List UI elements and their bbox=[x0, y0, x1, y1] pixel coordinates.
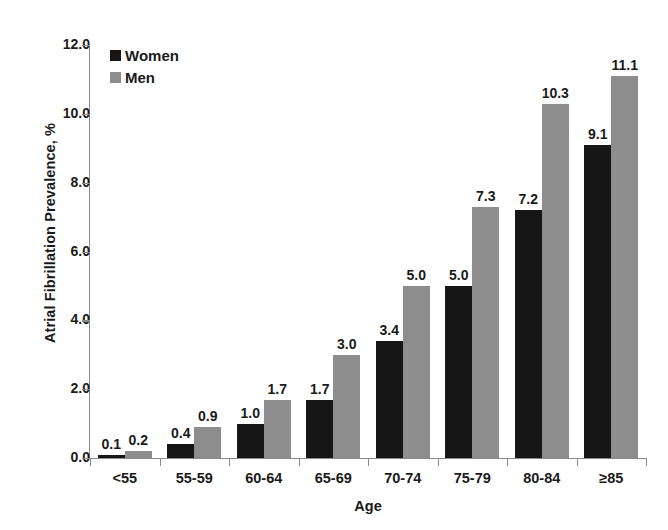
chart-container: Atrial Fibrillation Prevalence, % 0.02.0… bbox=[0, 0, 668, 530]
x-category-label: 65-69 bbox=[299, 470, 369, 486]
bar-women[interactable]: 3.4 bbox=[376, 341, 403, 458]
legend-label: Women bbox=[125, 48, 179, 63]
bar-value-label: 5.0 bbox=[407, 267, 426, 283]
bar-value-label: 1.7 bbox=[268, 381, 287, 397]
bar-men[interactable]: 11.1 bbox=[611, 76, 638, 458]
bar-value-label: 0.4 bbox=[171, 425, 190, 441]
bar-men[interactable]: 3.0 bbox=[333, 355, 360, 458]
bar-slot: 7.2 bbox=[515, 45, 542, 458]
bar-value-label: 10.3 bbox=[542, 85, 569, 101]
bar-women[interactable]: 9.1 bbox=[584, 145, 611, 458]
y-tick-mark bbox=[82, 45, 90, 46]
bar-group: 9.111.1 bbox=[577, 45, 647, 458]
y-tick-mark bbox=[82, 458, 90, 459]
y-tick-mark bbox=[82, 114, 90, 115]
bar-slot: 1.0 bbox=[237, 45, 264, 458]
bar-women[interactable]: 5.0 bbox=[445, 286, 472, 458]
bar-groups: 0.10.20.40.91.01.71.73.03.45.05.07.37.21… bbox=[90, 45, 646, 458]
bar-slot: 3.4 bbox=[376, 45, 403, 458]
legend-label: Men bbox=[125, 70, 155, 85]
bar-slot: 5.0 bbox=[445, 45, 472, 458]
bar-men[interactable]: 1.7 bbox=[264, 400, 291, 459]
x-tick-mark bbox=[90, 458, 91, 466]
bar-value-label: 11.1 bbox=[612, 57, 638, 73]
bar-value-label: 5.0 bbox=[449, 267, 468, 283]
bar-slot: 1.7 bbox=[264, 45, 291, 458]
bar-slot: 0.2 bbox=[125, 45, 152, 458]
bar-value-label: 1.0 bbox=[241, 405, 260, 421]
y-tick-label: 12.0 bbox=[16, 36, 90, 52]
y-tick-mark bbox=[82, 389, 90, 390]
bar-slot: 9.1 bbox=[584, 45, 611, 458]
bar-group: 1.01.7 bbox=[229, 45, 299, 458]
bar-slot: 5.0 bbox=[403, 45, 430, 458]
x-category-label: <55 bbox=[90, 470, 160, 486]
y-tick-mark bbox=[82, 320, 90, 321]
y-tick-label: 0.0 bbox=[16, 449, 90, 465]
bar-value-label: 0.2 bbox=[129, 432, 148, 448]
bar-value-label: 3.0 bbox=[337, 336, 356, 352]
bar-slot: 7.3 bbox=[472, 45, 499, 458]
legend-swatch-icon bbox=[110, 72, 121, 83]
bar-group: 0.40.9 bbox=[160, 45, 230, 458]
bar-slot: 10.3 bbox=[542, 45, 569, 458]
legend-item-women[interactable]: Women bbox=[110, 44, 179, 66]
x-tick-mark bbox=[507, 458, 508, 466]
bar-women[interactable]: 0.1 bbox=[98, 455, 125, 458]
y-tick-label: 2.0 bbox=[16, 380, 90, 396]
bar-men[interactable]: 0.9 bbox=[194, 427, 221, 458]
bar-value-label: 9.1 bbox=[588, 126, 607, 142]
y-axis-title: Atrial Fibrillation Prevalence, % bbox=[42, 33, 58, 433]
bar-slot: 0.1 bbox=[98, 45, 125, 458]
bar-women[interactable]: 1.7 bbox=[306, 400, 333, 459]
x-tick-mark bbox=[299, 458, 300, 466]
x-tick-mark bbox=[229, 458, 230, 466]
legend-swatch-icon bbox=[110, 50, 121, 61]
x-tick-mark bbox=[646, 458, 647, 466]
bar-group: 5.07.3 bbox=[438, 45, 508, 458]
x-tick-mark bbox=[438, 458, 439, 466]
bar-value-label: 3.4 bbox=[380, 322, 399, 338]
y-tick-label: 6.0 bbox=[16, 243, 90, 259]
bar-men[interactable]: 0.2 bbox=[125, 451, 152, 458]
bar-group: 7.210.3 bbox=[507, 45, 577, 458]
y-tick-label: 4.0 bbox=[16, 311, 90, 327]
x-axis-labels: <5555-5960-6465-6970-7475-7980-84≥85 bbox=[90, 470, 646, 486]
bar-value-label: 0.9 bbox=[198, 408, 217, 424]
bar-men[interactable]: 7.3 bbox=[472, 207, 499, 458]
legend-item-men[interactable]: Men bbox=[110, 66, 179, 88]
y-tick-mark bbox=[82, 183, 90, 184]
bar-slot: 0.9 bbox=[194, 45, 221, 458]
bar-women[interactable]: 1.0 bbox=[237, 424, 264, 458]
bar-men[interactable]: 10.3 bbox=[542, 104, 569, 458]
bar-slot: 3.0 bbox=[333, 45, 360, 458]
bar-women[interactable]: 7.2 bbox=[515, 210, 542, 458]
y-tick-label: 8.0 bbox=[16, 174, 90, 190]
x-category-label: 60-64 bbox=[229, 470, 299, 486]
bar-value-label: 7.3 bbox=[476, 188, 495, 204]
x-category-label: 80-84 bbox=[507, 470, 577, 486]
x-tick-mark bbox=[160, 458, 161, 466]
y-tick-mark bbox=[82, 252, 90, 253]
bar-slot: 11.1 bbox=[611, 45, 638, 458]
x-tick-mark bbox=[368, 458, 369, 466]
y-tick-label: 10.0 bbox=[16, 105, 90, 121]
x-category-label: 70-74 bbox=[368, 470, 438, 486]
x-category-label: 75-79 bbox=[438, 470, 508, 486]
x-category-label: 55-59 bbox=[160, 470, 230, 486]
bar-value-label: 7.2 bbox=[519, 191, 538, 207]
bar-group: 1.73.0 bbox=[299, 45, 369, 458]
x-category-label: ≥85 bbox=[577, 470, 647, 486]
bar-slot: 1.7 bbox=[306, 45, 333, 458]
bar-value-label: 1.7 bbox=[310, 381, 329, 397]
bar-women[interactable]: 0.4 bbox=[167, 444, 194, 458]
x-tick-mark bbox=[577, 458, 578, 466]
bar-group: 0.10.2 bbox=[90, 45, 160, 458]
bar-slot: 0.4 bbox=[167, 45, 194, 458]
bar-value-label: 0.1 bbox=[102, 436, 121, 452]
bar-men[interactable]: 5.0 bbox=[403, 286, 430, 458]
chart-legend: WomenMen bbox=[110, 44, 179, 88]
x-axis-title: Age bbox=[90, 498, 646, 514]
bar-group: 3.45.0 bbox=[368, 45, 438, 458]
